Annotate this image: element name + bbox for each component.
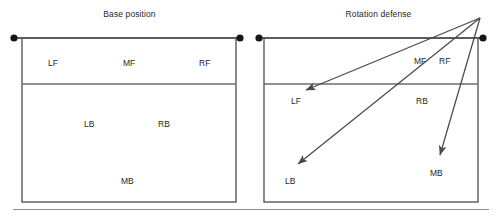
net-post-dot-right — [236, 34, 243, 41]
player-label-lb: LB — [285, 176, 295, 186]
panel-rotation-defense: Rotation defense MF RF LF RB — [250, 0, 501, 219]
player-label-rb: RB — [416, 96, 428, 106]
player-label-rf: RF — [199, 58, 210, 68]
court-diagram-rotation-defense — [250, 0, 501, 219]
net-post-dot-left — [10, 34, 17, 41]
player-label-mb: MB — [121, 176, 134, 186]
arrow-to-lb — [298, 18, 480, 164]
player-label-rb: RB — [158, 119, 170, 129]
figure-canvas: Base position LF MF RF LB RB MB Rotation… — [0, 0, 501, 219]
player-label-lf: LF — [48, 58, 58, 68]
player-label-mf: MF — [123, 58, 135, 68]
player-label-mf: MF — [414, 56, 426, 66]
figure-bottom-rule — [13, 209, 489, 210]
net-post-dot-right — [479, 34, 486, 41]
net-post-dot-left — [255, 34, 262, 41]
player-label-lf: LF — [291, 96, 301, 106]
arrow-to-lf — [306, 18, 480, 90]
player-label-lb: LB — [84, 119, 94, 129]
panel-base-position: Base position LF MF RF LB RB MB — [0, 0, 251, 219]
player-label-mb: MB — [430, 168, 443, 178]
player-label-rf: RF — [439, 56, 450, 66]
court-diagram-base-position — [0, 0, 251, 219]
